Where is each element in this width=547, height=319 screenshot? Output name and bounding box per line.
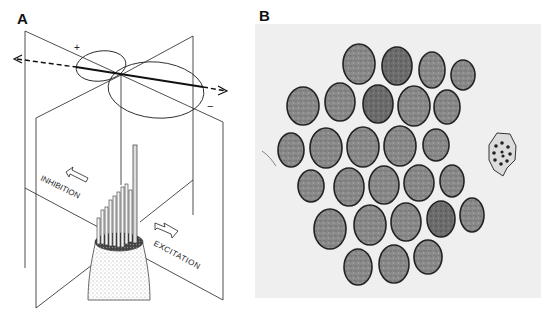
inhibition-arrow-icon bbox=[66, 167, 88, 182]
kinocilium bbox=[133, 145, 137, 243]
electron-micrograph bbox=[255, 24, 541, 298]
excitation-arrow-icon bbox=[155, 223, 178, 238]
stereocilia-bundle bbox=[97, 184, 132, 247]
plus-sign: + bbox=[74, 42, 80, 53]
panel-label-b: B bbox=[259, 8, 270, 23]
minus-sign: − bbox=[207, 100, 213, 112]
inhibition-label: INHIBITION bbox=[39, 174, 81, 201]
hair-cell-schematic: + − INHIBITION EXCITATION bbox=[0, 0, 250, 319]
